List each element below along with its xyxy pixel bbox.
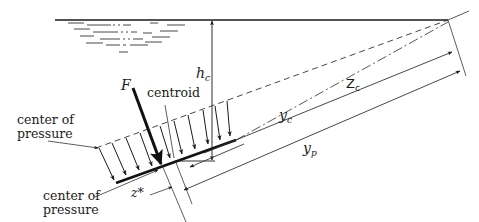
water-hatch-icon: [68, 23, 185, 52]
center-of-pressure-label-top: center of pressure: [17, 113, 74, 141]
z-star-label: z*: [131, 187, 144, 200]
free-surface: [55, 11, 469, 20]
force-label: F: [121, 78, 131, 92]
pressure-distribution-arrows: [99, 101, 230, 180]
center-of-pressure-label-bottom: center of pressure: [43, 189, 100, 217]
y-p-label: yp: [303, 141, 317, 158]
centroid-leader: [165, 105, 174, 158]
h-c-label: hc: [196, 66, 210, 83]
extension-lines: [162, 20, 466, 222]
distance-dimensions: [184, 52, 460, 190]
centroid-label: centroid: [147, 87, 200, 100]
Z-c-label: Zc: [346, 77, 360, 93]
y-c-label: yc: [279, 108, 292, 125]
